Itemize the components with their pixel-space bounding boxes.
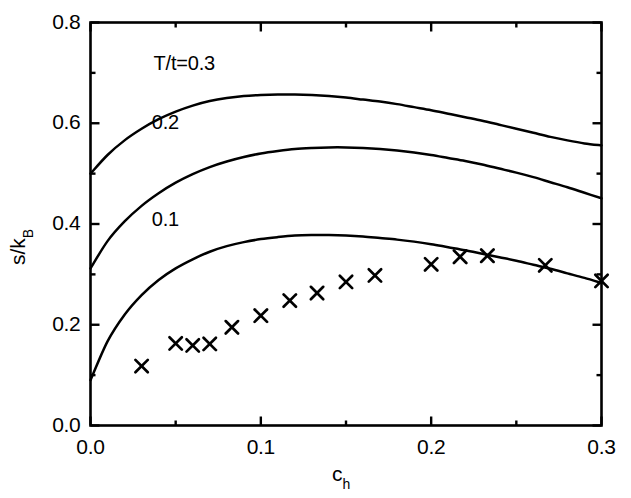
data-marker-x bbox=[425, 258, 437, 270]
data-marker-x bbox=[284, 294, 296, 306]
data-marker-x bbox=[187, 339, 199, 351]
data-marker-x bbox=[255, 309, 267, 321]
data-marker-x bbox=[454, 251, 466, 263]
x-tick-label: 0.2 bbox=[401, 435, 461, 459]
data-marker-x bbox=[135, 360, 147, 372]
y-tick-label: 0.6 bbox=[52, 110, 80, 134]
data-marker-x bbox=[369, 269, 381, 281]
data-marker-x bbox=[311, 287, 323, 299]
curve-2 bbox=[91, 235, 602, 380]
y-tick-label: 0.4 bbox=[52, 211, 80, 235]
x-tick-label: 0.0 bbox=[61, 435, 121, 459]
data-marker-x bbox=[340, 276, 352, 288]
x-tick-label: 0.3 bbox=[572, 435, 631, 459]
y-axis-title-subscript: B bbox=[20, 229, 36, 238]
y-tick-label: 0.0 bbox=[52, 413, 80, 437]
y-tick-label: 0.8 bbox=[52, 10, 80, 34]
plot-canvas bbox=[0, 0, 631, 498]
data-marker-x bbox=[169, 337, 181, 349]
curve-label-1: 0.2 bbox=[152, 111, 179, 134]
curve-lines bbox=[91, 94, 602, 380]
x-axis-title: ch bbox=[332, 462, 350, 489]
curve-label-2: 0.1 bbox=[152, 208, 179, 231]
data-marker-x bbox=[226, 321, 238, 333]
curve-label-0: T/t=0.3 bbox=[154, 52, 215, 75]
y-axis-title-base: s/k bbox=[6, 238, 29, 265]
data-marker-x bbox=[204, 338, 216, 350]
y-axis-title: s/kB bbox=[6, 229, 33, 265]
x-tick-label: 0.1 bbox=[231, 435, 291, 459]
chart-figure: 0.00.20.40.60.8 0.00.10.20.3 T/t=0.30.20… bbox=[0, 0, 631, 498]
x-axis-title-subscript: h bbox=[343, 476, 351, 492]
y-tick-label: 0.2 bbox=[52, 312, 80, 336]
x-axis-title-base: c bbox=[332, 462, 343, 485]
data-point-markers bbox=[135, 250, 607, 373]
